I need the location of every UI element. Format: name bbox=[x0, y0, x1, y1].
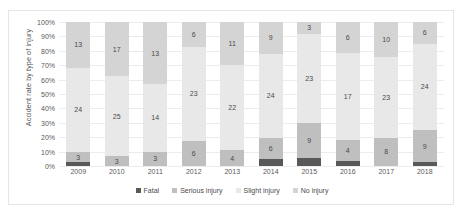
x-axis-tick-label: 2009 bbox=[59, 168, 98, 182]
bar-segment-label: 6 bbox=[346, 34, 350, 41]
x-axis-tick-label: 2013 bbox=[213, 168, 252, 182]
stacked-bar[interactable]: 9246 bbox=[259, 22, 283, 166]
bar-segment-label: 13 bbox=[74, 41, 82, 48]
y-axis-tick-label: 80% bbox=[41, 47, 55, 54]
bar-slot: 6249 bbox=[406, 22, 445, 166]
y-axis-tick-label: 100% bbox=[37, 19, 55, 26]
y-axis-tick-label: 0% bbox=[45, 163, 55, 170]
stacked-bar[interactable]: 11224 bbox=[220, 22, 244, 166]
legend-label: Fatal bbox=[144, 187, 160, 194]
bar-segment[interactable]: 9 bbox=[259, 22, 283, 54]
stacked-bar[interactable]: 3239 bbox=[297, 22, 321, 166]
bar-segment[interactable]: 6 bbox=[259, 138, 283, 159]
bar-segment-label: 3 bbox=[153, 155, 157, 162]
bar-segment-label: 3 bbox=[307, 24, 311, 31]
bar-segment-label: 9 bbox=[269, 34, 273, 41]
bar-segment[interactable]: 13 bbox=[143, 22, 167, 84]
bar-segment-label: 13 bbox=[151, 50, 159, 57]
bar-segment[interactable]: 6 bbox=[182, 141, 206, 166]
bar-segment[interactable]: 25 bbox=[105, 76, 129, 156]
bar-segment[interactable]: 10 bbox=[374, 22, 398, 57]
x-axis-tick-label: 2012 bbox=[175, 168, 214, 182]
bar-segment[interactable]: 24 bbox=[413, 44, 437, 130]
bar-segment-label: 11 bbox=[229, 40, 236, 47]
y-axis-tick-label: 70% bbox=[41, 62, 55, 69]
bar-slot: 6236 bbox=[175, 22, 214, 166]
bar-segment[interactable]: 8 bbox=[374, 138, 398, 166]
gridline bbox=[59, 166, 444, 167]
y-axis-tick-label: 30% bbox=[41, 119, 55, 126]
bar-segment[interactable] bbox=[66, 162, 90, 166]
bar-segment[interactable]: 6 bbox=[336, 22, 360, 53]
legend-item[interactable]: Fatal bbox=[136, 187, 160, 194]
bar-segment[interactable] bbox=[413, 162, 437, 166]
stacked-bar[interactable]: 13243 bbox=[66, 22, 90, 166]
bar-segment[interactable]: 24 bbox=[66, 68, 90, 152]
x-axis-tick-label: 2010 bbox=[98, 168, 137, 182]
bar-segment[interactable]: 17 bbox=[336, 53, 360, 140]
bar-segment[interactable] bbox=[336, 161, 360, 166]
bar-slot: 9246 bbox=[252, 22, 291, 166]
bar-segment-label: 3 bbox=[115, 158, 119, 165]
bar-segment[interactable]: 4 bbox=[336, 140, 360, 161]
plot-area: 0%10%20%30%40%50%60%70%80%90%100% 132431… bbox=[59, 22, 444, 166]
bar-segment[interactable]: 23 bbox=[297, 34, 321, 124]
bar-segment[interactable]: 4 bbox=[220, 150, 244, 166]
bar-segment[interactable]: 22 bbox=[220, 65, 244, 151]
stacked-bar[interactable]: 17253 bbox=[105, 22, 129, 166]
legend-label: No injury bbox=[301, 187, 329, 194]
bar-segment[interactable] bbox=[297, 158, 321, 166]
bar-segment[interactable]: 11 bbox=[220, 22, 244, 65]
bar-slot: 11224 bbox=[213, 22, 252, 166]
bar-slot: 10238 bbox=[367, 22, 406, 166]
x-axis-tick-label: 2015 bbox=[290, 168, 329, 182]
bar-slot: 6174 bbox=[329, 22, 368, 166]
bar-segment[interactable]: 23 bbox=[374, 57, 398, 138]
y-axis-tick-label: 60% bbox=[41, 76, 55, 83]
bar-segment[interactable]: 13 bbox=[66, 22, 90, 68]
bar-segment[interactable]: 6 bbox=[413, 22, 437, 44]
bar-segment[interactable]: 9 bbox=[413, 130, 437, 162]
x-axis-tick-label: 2016 bbox=[329, 168, 368, 182]
bar-segment-label: 25 bbox=[113, 113, 121, 120]
stacked-bar[interactable]: 10238 bbox=[374, 22, 398, 166]
bar-segment[interactable]: 3 bbox=[105, 156, 129, 166]
bar-segment[interactable]: 3 bbox=[66, 152, 90, 163]
legend-item[interactable]: Slight injury bbox=[236, 187, 280, 194]
bar-segment-label: 17 bbox=[113, 46, 121, 53]
bar-segment-label: 22 bbox=[228, 104, 236, 111]
bar-segment-label: 24 bbox=[74, 106, 82, 113]
legend-item[interactable]: Serious injury bbox=[172, 187, 222, 194]
stacked-bar[interactable]: 13143 bbox=[143, 22, 167, 166]
bar-slot: 13243 bbox=[59, 22, 98, 166]
bar-segment-label: 6 bbox=[423, 29, 427, 36]
stacked-bar[interactable]: 6236 bbox=[182, 22, 206, 166]
stacked-bar[interactable]: 6249 bbox=[413, 22, 437, 166]
bar-segment[interactable]: 17 bbox=[105, 22, 129, 76]
bar-segment[interactable]: 14 bbox=[143, 84, 167, 151]
legend-swatch-icon bbox=[293, 188, 298, 193]
legend-label: Serious injury bbox=[180, 187, 222, 194]
bar-segment-label: 24 bbox=[421, 83, 429, 90]
legend-label: Slight injury bbox=[244, 187, 280, 194]
bar-segment-label: 6 bbox=[192, 31, 196, 38]
stacked-bar[interactable]: 6174 bbox=[336, 22, 360, 166]
x-axis-tick-label: 2011 bbox=[136, 168, 175, 182]
bar-segment[interactable]: 3 bbox=[297, 22, 321, 34]
bar-segment[interactable] bbox=[259, 159, 283, 166]
bar-segment[interactable]: 23 bbox=[182, 47, 206, 142]
bar-slot: 3239 bbox=[290, 22, 329, 166]
y-axis-title: Accident rate by type of injury bbox=[24, 8, 33, 148]
bar-segment-label: 23 bbox=[190, 90, 198, 97]
legend-swatch-icon bbox=[236, 188, 241, 193]
bar-segment[interactable]: 9 bbox=[297, 123, 321, 158]
legend-swatch-icon bbox=[172, 188, 177, 193]
bar-slot: 17253 bbox=[98, 22, 137, 166]
bar-segment-label: 9 bbox=[423, 143, 427, 150]
bar-segment[interactable]: 3 bbox=[143, 152, 167, 166]
legend-item[interactable]: No injury bbox=[293, 187, 329, 194]
bar-segment-label: 23 bbox=[382, 94, 390, 101]
bar-segment[interactable]: 24 bbox=[259, 54, 283, 138]
bar-segment[interactable]: 6 bbox=[182, 22, 206, 47]
bar-segment-label: 6 bbox=[269, 145, 273, 152]
